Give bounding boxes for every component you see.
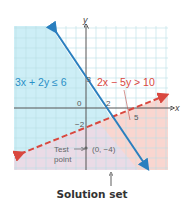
red-x-intercept-label: 5 xyxy=(134,113,139,122)
test-point-coords: (0, −4) xyxy=(92,145,116,154)
inequality-graph: x y 0 3 2 −2 5 3x + 2y ≤ 6 2x − 5y > 10 … xyxy=(0,0,184,209)
blue-x-intercept-label: 2 xyxy=(106,99,111,108)
test-point-label-line1: Test xyxy=(54,145,69,154)
blue-y-intercept-label: 3 xyxy=(87,75,92,84)
solution-set-caption: Solution set xyxy=(0,188,184,200)
red-inequality-label: 2x − 5y > 10 xyxy=(97,76,155,88)
test-point-marker xyxy=(84,146,87,149)
red-y-intercept-label: −2 xyxy=(75,120,85,129)
x-axis-label: x xyxy=(174,103,180,113)
blue-inequality-label: 3x + 2y ≤ 6 xyxy=(15,76,67,88)
test-point-label-line2: point xyxy=(54,155,72,164)
origin-label: 0 xyxy=(77,99,82,108)
y-axis-label: y xyxy=(82,15,88,25)
